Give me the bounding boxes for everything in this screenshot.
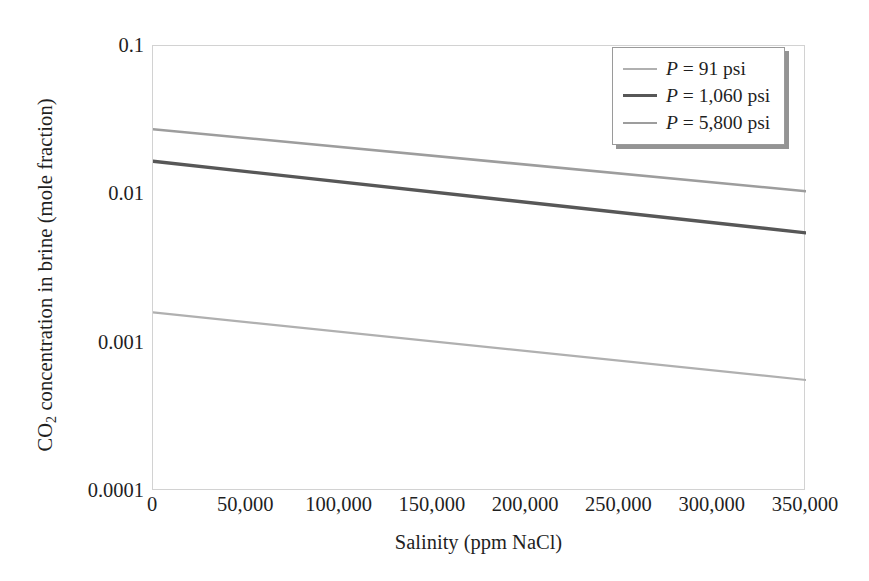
x-tick-label: 300,000: [678, 493, 745, 516]
legend-item[interactable]: P = 5,800 psi: [623, 109, 770, 136]
legend-item-label: P = 5,800 psi: [666, 112, 770, 134]
y-tick-label: 0.001: [12, 330, 152, 353]
legend-line-swatch: [623, 68, 657, 70]
x-tick-label: 100,000: [305, 493, 372, 516]
legend-item-label: P = 1,060 psi: [666, 85, 770, 107]
x-tick-label: 150,000: [399, 493, 466, 516]
x-tick-label: 50,000: [217, 493, 273, 516]
chart-legend: P = 91 psiP = 1,060 psiP = 5,800 psi: [612, 47, 785, 145]
chart-figure: CO2 concentration in brine (mole fractio…: [0, 0, 869, 581]
legend-item[interactable]: P = 91 psi: [623, 55, 770, 82]
y-tick-label: 0.01: [12, 182, 152, 205]
x-axis-title: Salinity (ppm NaCl): [152, 531, 805, 554]
legend-item[interactable]: P = 1,060 psi: [623, 82, 770, 109]
x-axis-tick-labels: 050,000100,000150,000200,000250,000300,0…: [0, 493, 869, 523]
y-tick-label: 0.1: [12, 34, 152, 57]
x-tick-label: 350,000: [772, 493, 839, 516]
legend-line-swatch: [623, 122, 657, 124]
series-line: [153, 161, 806, 233]
legend-item-label: P = 91 psi: [666, 58, 746, 80]
x-tick-label: 250,000: [585, 493, 652, 516]
x-tick-label: 200,000: [492, 493, 559, 516]
legend-line-swatch: [623, 94, 657, 97]
series-line: [153, 312, 806, 380]
x-tick-label: 0: [147, 493, 157, 516]
